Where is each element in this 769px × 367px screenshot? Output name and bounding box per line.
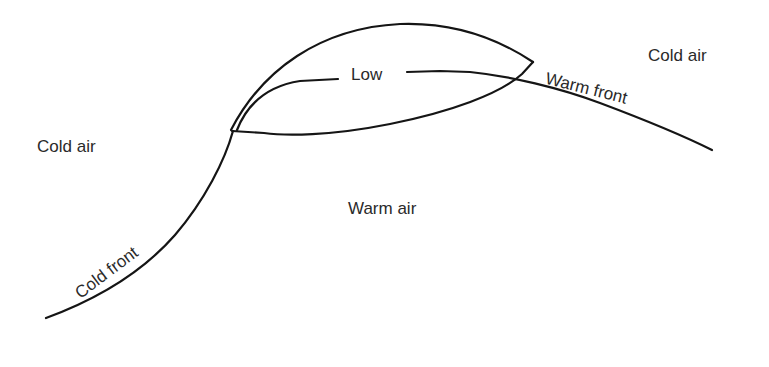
front-diagram: Low Cold air Cold air Warm air Warm fron… [0,0,769,367]
low-pressure-label: Low [351,66,382,83]
warm-air-label: Warm air [348,200,416,217]
inner-front-left [237,79,338,130]
cold-air-right-label: Cold air [648,47,707,64]
cold-air-left-label: Cold air [37,138,96,155]
occluded-lens-lower-arc [232,62,533,135]
